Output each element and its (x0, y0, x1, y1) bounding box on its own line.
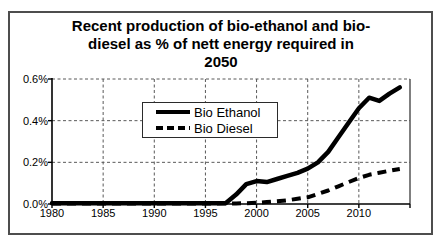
y-axis-label: 0.2% (14, 155, 48, 169)
legend-item-bio-ethanol: Bio Ethanol (156, 105, 277, 120)
x-axis-label: 2000 (235, 207, 279, 220)
x-axis-label: 2010 (337, 207, 381, 220)
y-axis-label: 0.6% (14, 72, 48, 86)
x-axis-label: 1995 (183, 207, 227, 220)
chart-title-line-2: diesel as % of nett energy required in (32, 35, 410, 53)
legend-label-bio-ethanol: Bio Ethanol (194, 105, 261, 120)
x-axis-label: 1980 (30, 207, 74, 220)
x-axis-label: 1990 (132, 207, 176, 220)
chart-title-line-1: Recent production of bio-ethanol and bio… (32, 17, 410, 35)
legend-label-bio-diesel: Bio Diesel (194, 121, 253, 136)
chart-title: Recent production of bio-ethanol and bio… (32, 17, 410, 71)
x-axis-label: 1985 (81, 207, 125, 220)
chart-title-line-3: 2050 (32, 53, 410, 71)
legend-item-bio-diesel: Bio Diesel (156, 121, 277, 136)
bio-diesel-line-icon (156, 124, 190, 132)
x-axis-label: 2005 (286, 207, 330, 220)
bio-diesel-line (52, 169, 400, 204)
plot-area (46, 76, 420, 216)
legend: Bio Ethanol Bio Diesel (142, 102, 278, 138)
bio-ethanol-line-icon (156, 108, 190, 116)
y-axis-label: 0.4% (14, 114, 48, 128)
